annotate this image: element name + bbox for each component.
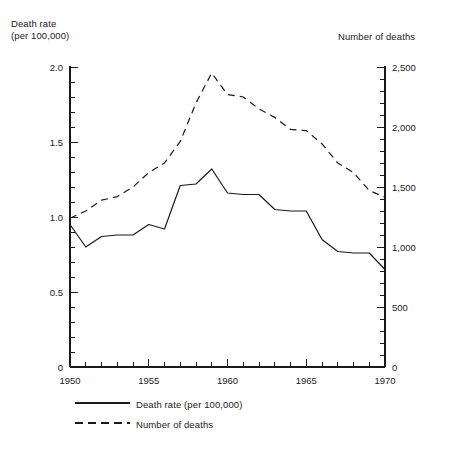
svg-text:1950: 1950 [59,375,80,386]
svg-text:2,500: 2,500 [392,62,416,73]
series-number-of-deaths [70,73,385,218]
svg-text:1,500: 1,500 [392,182,416,193]
svg-text:1970: 1970 [374,375,395,386]
legend-label-death-rate: Death rate (per 100,000) [136,399,242,410]
svg-text:2,000: 2,000 [392,122,416,133]
svg-text:1.0: 1.0 [50,212,63,223]
chart-plot-area: 00.51.01.52.005001,0001,5002,0002,500195… [0,0,450,449]
svg-text:0.5: 0.5 [50,287,63,298]
svg-text:1,000: 1,000 [392,242,416,253]
svg-text:1960: 1960 [217,375,238,386]
svg-text:1.5: 1.5 [50,137,63,148]
svg-text:1965: 1965 [296,375,317,386]
svg-text:1955: 1955 [138,375,159,386]
legend-label-number-of-deaths: Number of deaths [136,419,213,430]
svg-text:0: 0 [392,362,397,373]
svg-text:500: 500 [392,302,408,313]
chart-figure: Death rate(per 100,000) Number of deaths… [0,0,450,449]
series-death-rate [70,169,385,270]
svg-text:2.0: 2.0 [50,62,63,73]
svg-text:0: 0 [58,362,63,373]
